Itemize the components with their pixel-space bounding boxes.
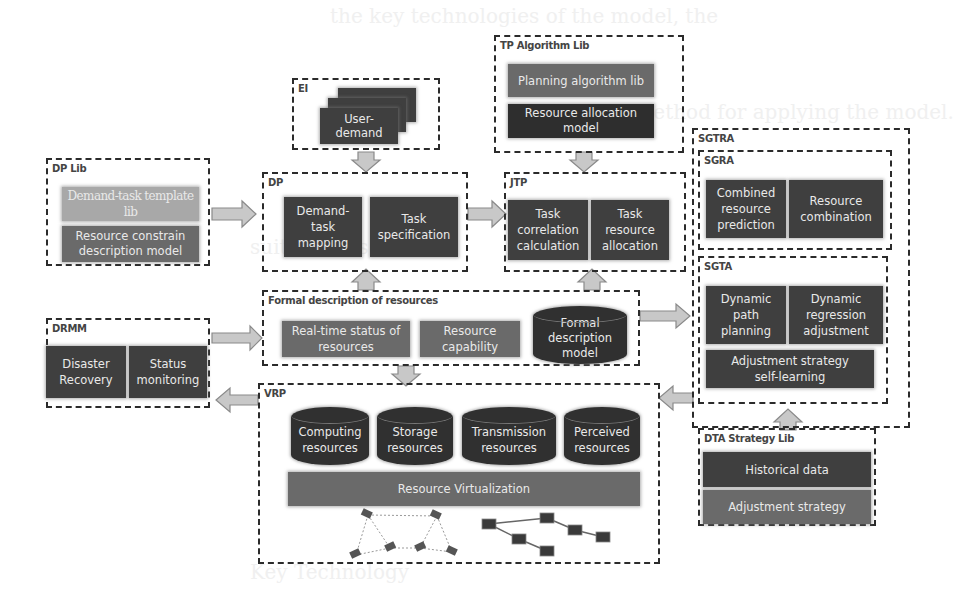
adjustment-strategy-box: Adjustment strategy [703,490,871,524]
historical-data-box: Historical data [703,452,871,487]
group-label: DTA Strategy Lib [704,433,794,444]
